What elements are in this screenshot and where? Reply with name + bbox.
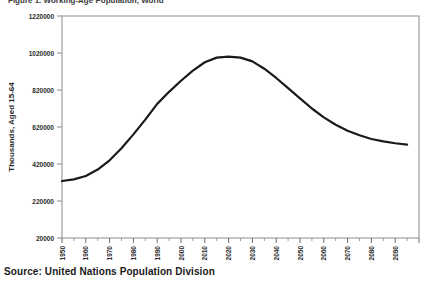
source-note: Source: United Nations Population Divisi… xyxy=(4,266,215,277)
x-tick-label: 2070 xyxy=(344,246,351,261)
y-tick-label: 20000 xyxy=(36,235,54,242)
x-tick-label: 1960 xyxy=(82,246,89,261)
line-chart: 1220000 1020000 820000 620000 420000 220… xyxy=(0,0,429,286)
y-axis-ticks xyxy=(57,16,62,238)
x-tick-label: 2090 xyxy=(392,246,399,261)
y-tick-label: 1220000 xyxy=(29,13,55,20)
x-tick-label: 2020 xyxy=(225,246,232,261)
x-tick-label: 1970 xyxy=(106,246,113,261)
x-tick-label: 1980 xyxy=(130,246,137,261)
figure-container: Figure 1. Working-Age Population, World … xyxy=(0,0,429,286)
x-tick-label: 2030 xyxy=(249,246,256,261)
x-tick-label: 2000 xyxy=(178,246,185,261)
x-tick-label: 1950 xyxy=(59,246,66,261)
x-tick-label: 2010 xyxy=(201,246,208,261)
x-tick-label: 2050 xyxy=(297,246,304,261)
x-tick-label: 2080 xyxy=(368,246,375,261)
x-tick-label: 1990 xyxy=(154,246,161,261)
y-tick-label: 1020000 xyxy=(29,50,55,57)
x-axis-labels: 1950 1960 1970 1980 1990 2000 2010 2020 … xyxy=(59,246,399,261)
plot-area-frame xyxy=(62,16,419,238)
y-tick-label: 220000 xyxy=(32,198,54,205)
x-tick-label: 2040 xyxy=(273,246,280,261)
y-tick-label: 820000 xyxy=(32,87,54,94)
y-axis-labels: 1220000 1020000 820000 620000 420000 220… xyxy=(29,13,55,242)
y-axis-title: Thousands, Aged 15-64 xyxy=(7,82,16,172)
x-tick-label: 2060 xyxy=(320,246,327,261)
y-tick-label: 420000 xyxy=(32,161,54,168)
y-tick-label: 620000 xyxy=(32,124,54,131)
